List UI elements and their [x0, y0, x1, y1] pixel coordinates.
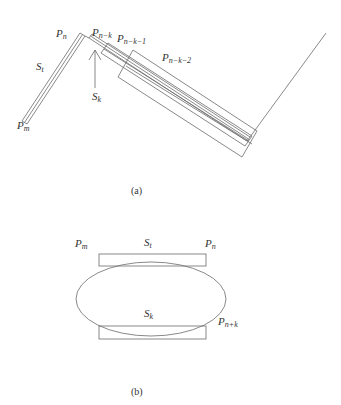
label-p-m: Pm	[17, 120, 30, 133]
rect-top	[99, 254, 206, 266]
arrow-up-icon	[89, 50, 101, 88]
inner-line	[126, 66, 252, 144]
caption-a: (a)	[131, 186, 142, 196]
ellipse-s-k	[76, 262, 226, 336]
caption-b: (b)	[131, 387, 143, 397]
label-b-s-t: St	[144, 237, 152, 250]
label-b-p-m: Pm	[75, 238, 88, 251]
label-p-n: Pn	[56, 28, 67, 41]
label-p-n-k-2: Pn−k−2	[162, 52, 191, 65]
label-b-p-n-k: Pn+k	[218, 316, 238, 329]
rect-bottom	[99, 326, 206, 339]
strip-s-k	[89, 34, 250, 141]
strip-s-t	[22, 33, 85, 124]
extension-line	[250, 33, 326, 137]
figure-b-shapes	[76, 254, 226, 339]
label-s-k: Sk	[92, 91, 101, 104]
connector	[85, 36, 89, 38]
rect-p-n-k-2	[118, 50, 257, 157]
label-b-s-k: Sk	[144, 308, 153, 321]
label-p-n-k-1: Pn−k−1	[117, 33, 146, 46]
label-b-p-n: Pn	[205, 238, 216, 251]
label-s-t: St	[36, 61, 44, 74]
label-p-n-k: Pn−k	[92, 27, 112, 40]
